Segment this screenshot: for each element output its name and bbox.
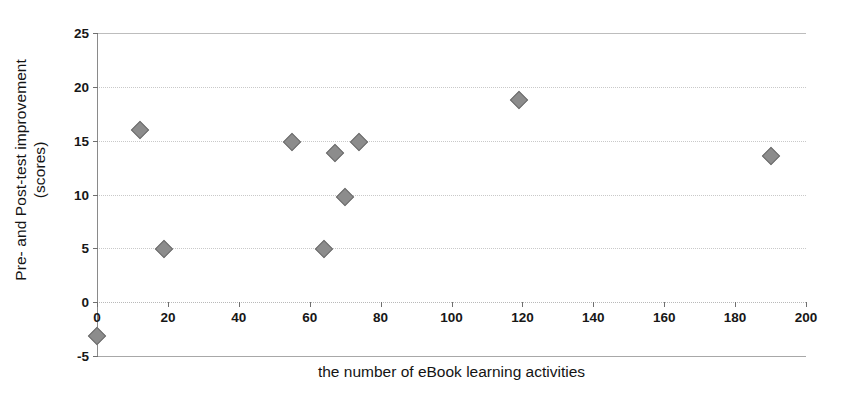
x-tick-label-180: 180: [724, 310, 747, 325]
y-tick-10: [93, 195, 98, 196]
data-point: [336, 187, 354, 205]
y-tick-label-15: 15: [74, 133, 89, 148]
x-tick-180: [735, 302, 736, 307]
data-point: [350, 133, 368, 151]
x-tick-20: [168, 302, 169, 307]
x-tick-label-160: 160: [653, 310, 676, 325]
x-tick-60: [310, 302, 311, 307]
x-tick-0: [97, 302, 98, 307]
y-tick--5: [93, 356, 98, 357]
y-tick-25: [93, 33, 98, 34]
x-tick-140: [593, 302, 594, 307]
data-point: [88, 326, 106, 344]
y-tick-5: [93, 248, 98, 249]
data-point: [510, 91, 528, 109]
data-point: [155, 240, 173, 258]
plot-area: -50510152025 020406080100120140160180200: [97, 33, 806, 356]
x-axis-title: the number of eBook learning activities: [97, 363, 806, 381]
y-axis-title-line-2: (scores): [31, 59, 50, 281]
gridline-y-20: [97, 87, 806, 88]
x-tick-160: [664, 302, 665, 307]
x-tick-200: [806, 302, 807, 307]
x-tick-120: [522, 302, 523, 307]
gridline-y-5: [97, 248, 806, 249]
y-tick-label-25: 25: [74, 26, 89, 41]
y-tick-15: [93, 141, 98, 142]
x-tick-label-40: 40: [231, 310, 246, 325]
x-tick-label-200: 200: [795, 310, 818, 325]
x-tick-100: [452, 302, 453, 307]
gridline-y-25: [97, 33, 806, 34]
data-point: [315, 240, 333, 258]
data-point: [761, 147, 779, 165]
x-tick-label-120: 120: [511, 310, 534, 325]
y-tick-20: [93, 87, 98, 88]
x-tick-label-140: 140: [582, 310, 605, 325]
data-point: [130, 121, 148, 139]
x-tick-label-0: 0: [93, 310, 101, 325]
y-tick-label-10: 10: [74, 187, 89, 202]
y-tick-label--5: -5: [77, 349, 89, 364]
y-axis-title-line-1: Pre- and Post-test improvement: [12, 59, 29, 281]
y-tick-label-20: 20: [74, 79, 89, 94]
y-axis-title: Pre- and Post-test improvement (scores): [0, 0, 62, 340]
y-tick-label-0: 0: [81, 295, 89, 310]
gridline-y-10: [97, 195, 806, 196]
gridline-y-15: [97, 141, 806, 142]
x-tick-80: [381, 302, 382, 307]
x-tick-label-100: 100: [440, 310, 463, 325]
y-tick-label-5: 5: [81, 241, 89, 256]
x-tick-40: [239, 302, 240, 307]
scatter-chart: Pre- and Post-test improvement (scores) …: [0, 0, 842, 402]
data-point: [283, 133, 301, 151]
x-tick-label-20: 20: [160, 310, 175, 325]
x-tick-label-80: 80: [373, 310, 388, 325]
gridline-y--5: [97, 356, 806, 357]
x-tick-label-60: 60: [302, 310, 317, 325]
data-point: [325, 143, 343, 161]
